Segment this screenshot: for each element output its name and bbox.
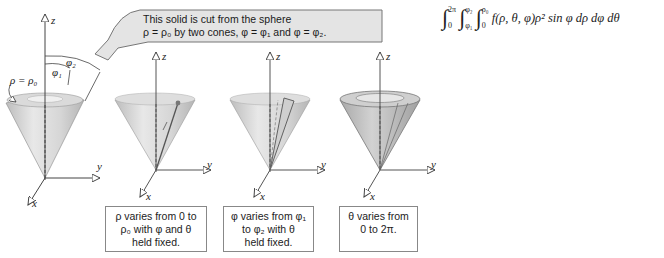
label-phi2: φ₂ [66, 56, 76, 68]
middle-lower: φ₁ [465, 20, 472, 32]
outer-lower: 0 [448, 20, 456, 32]
label-z-4: z [386, 50, 390, 62]
caption-rho: ρ varies from 0 to ρ₀ with φ and θ held … [105, 206, 207, 252]
cone-3-phi-varies [230, 52, 325, 197]
callout-line-2: ρ = ρ₀ by two cones, φ = φ₁ and φ = φ₂. [143, 26, 326, 39]
inner-upper: ρ₀ [482, 4, 489, 16]
caption-phi-line-2: to φ₂ with θ [224, 223, 313, 236]
label-x-4: x [370, 190, 375, 202]
caption-rho-line-2: ρ₀ with φ and θ [106, 223, 206, 236]
caption-theta: θ varies from 0 to 2π. [339, 206, 418, 252]
label-y-2: y [207, 158, 212, 170]
caption-phi: φ varies from φ₁ to φ₂ with θ held fixed… [223, 206, 314, 252]
middle-upper: φ₂ [465, 4, 472, 16]
label-x-2: x [146, 190, 151, 202]
callout-line-1: This solid is cut from the sphere [143, 13, 326, 26]
label-y-1: y [97, 160, 102, 172]
figure-canvas [0, 0, 664, 258]
label-z-3: z [276, 50, 280, 62]
triple-integral: ∫2π0 ∫φ₂φ₁ ∫ρ₀0 f(ρ, θ, φ)ρ² sin φ dρ dφ… [442, 4, 620, 32]
integrand: f(ρ, θ, φ)ρ² sin φ dρ dφ dθ [492, 11, 620, 25]
inner-lower: 0 [482, 20, 489, 32]
label-z-2: z [162, 50, 166, 62]
label-rho-eq: ρ = ρ₀ [10, 74, 37, 86]
label-x-1: x [32, 197, 37, 209]
callout-text: This solid is cut from the sphere ρ = ρ₀… [143, 13, 326, 39]
outer-upper: 2π [448, 4, 456, 16]
caption-rho-line-3: held fixed. [106, 236, 206, 249]
caption-theta-line-2: 0 to 2π. [340, 223, 417, 236]
label-z-1: z [51, 14, 55, 26]
cone-2-rho-varies [115, 52, 211, 197]
caption-theta-line-1: θ varies from [340, 210, 417, 223]
caption-phi-line-1: φ varies from φ₁ [224, 210, 313, 223]
cone-1-full-solid [6, 14, 100, 205]
label-y-3: y [321, 158, 326, 170]
label-x-3: x [260, 190, 265, 202]
caption-rho-line-1: ρ varies from 0 to [106, 210, 206, 223]
cone-4-theta-varies [340, 52, 435, 197]
label-phi1: φ₁ [52, 66, 62, 78]
caption-phi-line-3: held fixed. [224, 236, 313, 249]
label-y-4: y [431, 158, 436, 170]
